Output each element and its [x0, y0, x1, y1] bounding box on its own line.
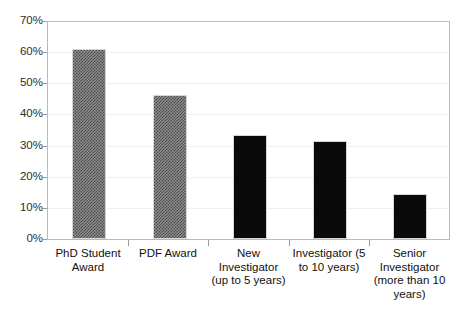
y-tick-label: 0% — [3, 233, 43, 245]
bar-phd-student-award[interactable] — [72, 49, 106, 239]
x-tick-mark — [128, 240, 129, 246]
bar-chart: 70% 60% 50% 40% 30% 20% 10% 0% — [0, 0, 470, 314]
x-tick-mark — [289, 240, 290, 246]
x-label-new-investigator: New Investigator (up to 5 years) — [208, 247, 289, 288]
y-tick-label: 10% — [3, 202, 43, 214]
x-label-pdf-award: PDF Award — [128, 247, 208, 261]
y-tick-label: 40% — [3, 108, 43, 120]
gridline — [48, 114, 449, 115]
x-tick-mark — [208, 240, 209, 246]
y-tick-label: 50% — [3, 77, 43, 89]
y-tick-label: 70% — [3, 15, 43, 27]
bar-new-investigator[interactable] — [233, 135, 267, 239]
y-tick-label: 30% — [3, 140, 43, 152]
gridline — [48, 83, 449, 84]
x-label-investigator-5-to-10-years: Investigator (5 to 10 years) — [289, 247, 369, 274]
bar-senior-investigator[interactable] — [393, 194, 427, 239]
bar-pdf-award[interactable] — [153, 95, 187, 239]
x-label-senior-investigator: Senior Investigator (more than 10 years) — [369, 247, 450, 301]
x-label-phd-student-award: PhD Student Award — [48, 247, 128, 274]
plot-area — [47, 21, 450, 240]
gridline — [48, 52, 449, 53]
y-tick-label: 60% — [3, 46, 43, 58]
y-tick-label: 20% — [3, 171, 43, 183]
x-tick-mark — [369, 240, 370, 246]
bar-investigator-5-to-10-years[interactable] — [313, 141, 347, 239]
